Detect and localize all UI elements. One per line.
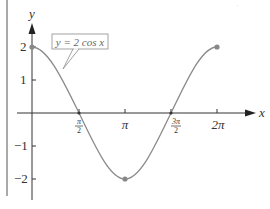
y-tick-label-1: 1 [20,72,27,87]
svg-text:2: 2 [174,126,178,135]
function-label-text: y = 2 cos x [55,36,104,48]
point-zero-pi-over-2 [77,111,80,114]
point-minimum [122,176,127,181]
stray-mark: ' [237,4,238,9]
function-label-callout: y = 2 cos x [52,34,108,69]
y-axis-label: y [27,6,35,21]
x-axis-label: x [258,105,265,120]
svg-text:3π: 3π [171,117,181,126]
x-tick-label-pi: π [122,117,129,132]
y-tick-label-neg2: −2 [14,171,28,186]
x-ticks [79,109,217,113]
x-tick-label-2pi: 2π [211,117,225,132]
point-start [29,44,34,49]
point-zero-3pi-over-2 [169,111,172,114]
y-axis-arrow-icon [29,23,36,34]
x-axis-arrow-icon [245,110,256,117]
point-end [214,44,219,49]
cosine-chart: x y 2 1 −1 −2 π 2 π 3π 2 2π [0,0,270,209]
x-tick-label-3pi-over-2: 3π 2 [171,117,181,135]
x-axis: x [17,105,265,120]
y-axis: y [27,6,36,200]
y-tick-label-neg1: −1 [14,138,28,153]
callout-pointer [63,49,79,69]
y-tick-label-2: 2 [20,39,27,54]
svg-text:2: 2 [77,126,81,135]
